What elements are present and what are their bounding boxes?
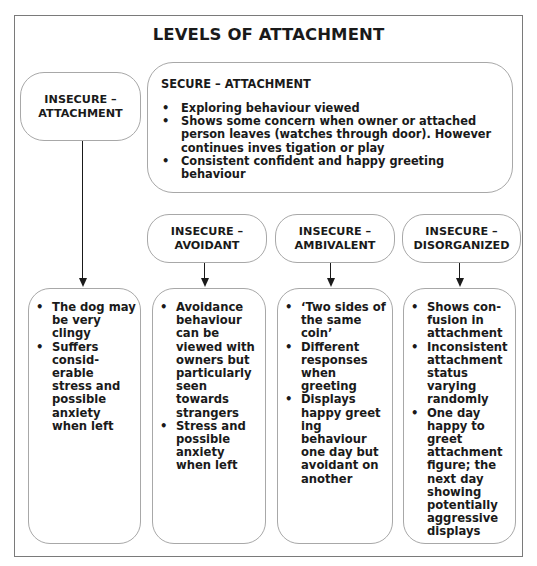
list-item: ‘Two sides of the same coin’ <box>284 301 388 341</box>
arrow-down-icon <box>79 278 87 287</box>
list-item: Shows some concern when owner or attache… <box>161 115 500 155</box>
list-item: Suffers consid- erable stress and possib… <box>35 341 136 433</box>
list-item: Avoidance behaviour can be viewed with o… <box>159 301 261 420</box>
list-item: Shows con- fusion in attachment <box>410 301 511 341</box>
arrow-down-icon <box>327 278 335 287</box>
diagram-title: LEVELS OF ATTACHMENT <box>0 25 537 44</box>
insecure-avoidant-detail-list: Avoidance behaviour can be viewed with o… <box>159 301 261 473</box>
insecure-attachment-label-line1: INSECURE – <box>38 93 122 107</box>
list-item: Displays happy greet ing behaviour one d… <box>284 393 388 485</box>
insecure-disorganized-detail-list: Shows con- fusion in attachment Inconsis… <box>410 301 511 539</box>
connector-line-insecure <box>82 141 83 279</box>
insecure-disorganized-box: INSECURE – DISORGANIZED <box>402 214 521 263</box>
insecure-attachment-box: INSECURE – ATTACHMENT <box>20 72 141 141</box>
insecure-attachment-details: The dog may be very clingy Suffers consi… <box>28 288 141 544</box>
secure-attachment-heading: SECURE – ATTACHMENT <box>161 77 500 91</box>
list-item: The dog may be very clingy <box>35 301 136 341</box>
insecure-disorganized-label-line2: DISORGANIZED <box>413 239 509 253</box>
list-item: Different responses when greeting <box>284 341 388 394</box>
list-item: Stress and possible anxiety when left <box>159 420 261 473</box>
insecure-attachment-label-line2: ATTACHMENT <box>38 107 122 121</box>
insecure-avoidant-label-line2: AVOIDANT <box>171 239 243 253</box>
insecure-ambivalent-label-line2: AMBIVALENT <box>295 239 376 253</box>
insecure-ambivalent-label-line1: INSECURE – <box>295 225 376 239</box>
insecure-ambivalent-detail-list: ‘Two sides of the same coin’ Different r… <box>284 301 388 486</box>
insecure-avoidant-box: INSECURE – AVOIDANT <box>147 214 267 263</box>
list-item: Inconsistent attachment status varying r… <box>410 341 511 407</box>
insecure-avoidant-details: Avoidance behaviour can be viewed with o… <box>152 288 266 544</box>
insecure-avoidant-label-line1: INSECURE – <box>171 225 243 239</box>
insecure-disorganized-label-line1: INSECURE – <box>413 225 509 239</box>
insecure-ambivalent-details: ‘Two sides of the same coin’ Different r… <box>277 288 393 544</box>
insecure-attachment-detail-list: The dog may be very clingy Suffers consi… <box>35 301 136 433</box>
arrow-down-icon <box>201 278 209 287</box>
list-item: Consistent confident and happy greeting … <box>161 155 500 181</box>
secure-attachment-list: Exploring behaviour viewed Shows some co… <box>161 102 500 181</box>
insecure-ambivalent-box: INSECURE – AMBIVALENT <box>275 214 395 263</box>
arrow-down-icon <box>456 278 464 287</box>
insecure-disorganized-details: Shows con- fusion in attachment Inconsis… <box>403 288 516 544</box>
list-item: One day happy to greet attachment figure… <box>410 407 511 539</box>
secure-attachment-box: SECURE – ATTACHMENT Exploring behaviour … <box>147 62 513 193</box>
